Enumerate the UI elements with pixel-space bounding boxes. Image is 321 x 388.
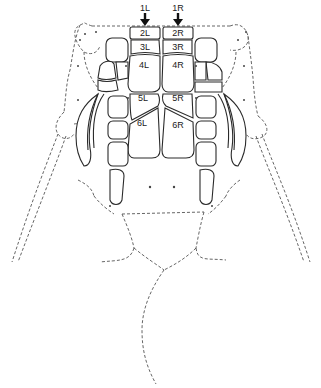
lateral-plates-left [98,38,128,205]
plate-label-2R: 2R [172,28,184,38]
left-leg [12,112,80,262]
plate-label-3L: 3L [140,42,150,52]
lateral-plates-right [195,38,222,205]
plate-label-5L: 5L [138,93,148,103]
arrow-label-1R: 1R [172,3,184,13]
curved-plates-right [218,94,246,166]
right-leg [246,116,310,262]
plate-label-6R: 6R [172,120,184,130]
anatomical-diagram: 1L 1R 2L 2R 3L 3R 4L 4R 5L 5R 6L 6R [0,0,321,388]
curved-plates-left [76,94,104,166]
plate-label-2L: 2L [140,28,150,38]
pores [77,31,247,207]
arrow-1L: 1L [140,3,150,26]
plate-label-6L: 6L [137,118,147,128]
plate-label-4R: 4R [172,60,184,70]
arrow-label-1L: 1L [140,3,150,13]
plate-label-4L: 4L [139,60,149,70]
plate-label-3R: 3R [172,42,184,52]
arrow-1R: 1R [172,3,184,26]
plate-label-5R: 5R [172,93,184,103]
